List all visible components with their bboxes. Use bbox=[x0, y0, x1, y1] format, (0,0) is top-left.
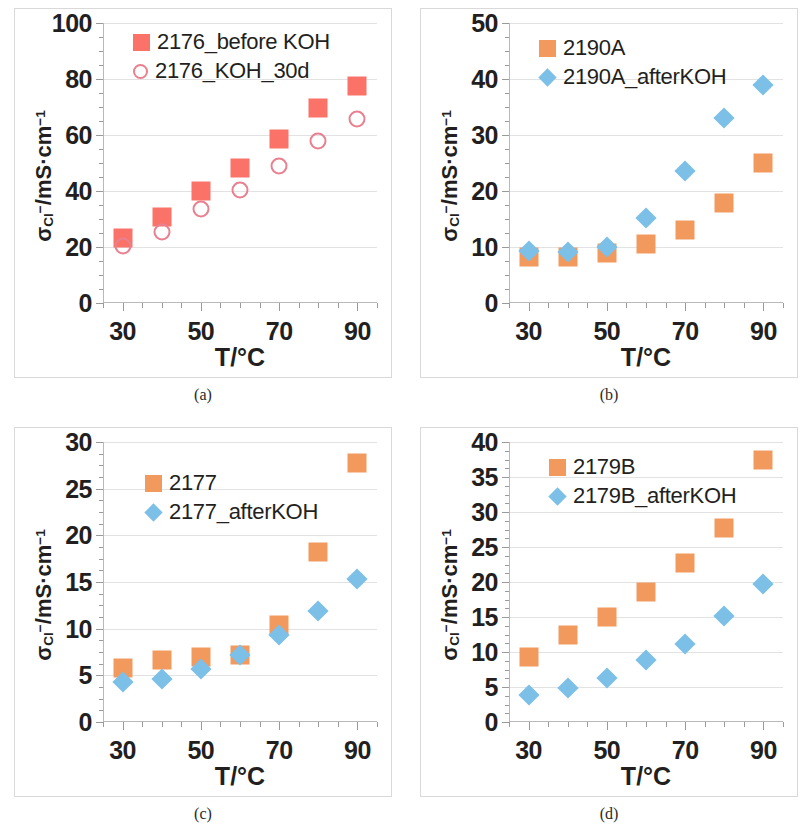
marker-circle-open bbox=[192, 201, 209, 218]
y-tick-minor bbox=[505, 643, 509, 644]
legend-item[interactable]: 2176_KOH_30d bbox=[133, 58, 330, 84]
x-tick-label: 50 bbox=[187, 736, 214, 765]
legend-item[interactable]: 2177 bbox=[145, 470, 318, 496]
x-tick-label: 90 bbox=[750, 736, 777, 765]
panel-caption: (a) bbox=[0, 386, 406, 404]
x-tick-minor bbox=[142, 722, 143, 727]
marker-circle-open bbox=[349, 110, 366, 127]
legend-item[interactable]: 2190A_afterKOH bbox=[539, 64, 726, 90]
y-tick-minor bbox=[99, 289, 103, 290]
marker-square bbox=[348, 453, 367, 472]
x-tick-minor bbox=[626, 722, 627, 727]
x-tick-minor bbox=[299, 722, 300, 727]
panel-d: 0510152025303540305070902179B2179B_after… bbox=[406, 419, 812, 838]
legend-item[interactable]: 2179B_afterKOH bbox=[549, 483, 736, 509]
plot-frame: 0510152025303050709021772177_afterKOHT/°… bbox=[14, 427, 392, 797]
y-tick-minor bbox=[99, 699, 103, 700]
y-tick-major bbox=[502, 79, 509, 80]
x-tick-minor bbox=[705, 303, 706, 308]
legend-item[interactable]: 2179B bbox=[549, 454, 736, 480]
y-axis-line bbox=[103, 23, 104, 303]
y-tick-major bbox=[96, 582, 103, 583]
y-tick-minor bbox=[99, 465, 103, 466]
marker-square bbox=[676, 221, 695, 240]
legend-item[interactable]: 2177_afterKOH bbox=[145, 499, 318, 525]
y-tick-major bbox=[96, 722, 103, 723]
marker-diamond bbox=[596, 667, 617, 688]
marker-square bbox=[348, 77, 367, 96]
x-tick-minor bbox=[666, 303, 667, 308]
x-tick-label: 70 bbox=[672, 317, 699, 346]
y-tick-minor bbox=[505, 261, 509, 262]
x-tick-label: 50 bbox=[593, 736, 620, 765]
x-tick-minor bbox=[162, 303, 163, 308]
y-tick-label: 30 bbox=[65, 428, 92, 457]
y-tick-minor bbox=[99, 570, 103, 571]
gridline-horizontal bbox=[509, 617, 783, 618]
y-tick-minor bbox=[99, 233, 103, 234]
legend-item-label: 2179B_afterKOH bbox=[573, 483, 736, 509]
marker-circle-open bbox=[310, 133, 327, 150]
y-tick-major bbox=[502, 442, 509, 443]
marker-diamond bbox=[557, 677, 578, 698]
y-tick-label: 5 bbox=[485, 673, 498, 702]
x-tick-minor bbox=[162, 722, 163, 727]
y-tick-major bbox=[96, 23, 103, 24]
y-tick-major bbox=[502, 135, 509, 136]
x-tick-minor bbox=[568, 303, 569, 308]
y-tick-label: 50 bbox=[471, 9, 498, 38]
y-tick-label: 0 bbox=[79, 289, 92, 318]
y-tick-minor bbox=[505, 451, 509, 452]
y-tick-minor bbox=[505, 205, 509, 206]
y-tick-minor bbox=[505, 149, 509, 150]
x-tick-major bbox=[123, 722, 124, 730]
y-tick-minor bbox=[99, 524, 103, 525]
gridline-horizontal bbox=[103, 582, 377, 583]
gridline-horizontal bbox=[103, 629, 377, 630]
gridline-horizontal bbox=[103, 442, 377, 443]
x-tick-major bbox=[279, 303, 280, 311]
x-tick-major bbox=[685, 722, 686, 730]
gridline-horizontal bbox=[103, 23, 377, 24]
y-tick-major bbox=[96, 489, 103, 490]
y-tick-minor bbox=[505, 289, 509, 290]
x-tick-minor bbox=[338, 303, 339, 308]
y-tick-minor bbox=[505, 233, 509, 234]
y-tick-minor bbox=[505, 219, 509, 220]
y-tick-minor bbox=[99, 65, 103, 66]
y-tick-label: 0 bbox=[485, 289, 498, 318]
y-tick-label: 25 bbox=[65, 474, 92, 503]
gridline-horizontal bbox=[509, 442, 783, 443]
y-tick-minor bbox=[505, 713, 509, 714]
y-tick-minor bbox=[99, 51, 103, 52]
y-tick-label: 100 bbox=[52, 9, 92, 38]
legend: 21772177_afterKOH bbox=[145, 470, 318, 528]
y-tick-minor bbox=[505, 275, 509, 276]
marker-square bbox=[191, 182, 210, 201]
y-tick-minor bbox=[99, 664, 103, 665]
panel-caption: (d) bbox=[406, 805, 812, 823]
y-tick-minor bbox=[99, 617, 103, 618]
marker-diamond bbox=[753, 74, 774, 95]
y-axis-title: σCl−/mS·cm−1 bbox=[437, 61, 463, 291]
legend-item[interactable]: 2190A bbox=[539, 35, 726, 61]
y-tick-minor bbox=[505, 626, 509, 627]
x-tick-minor bbox=[646, 722, 647, 727]
legend-marker-square bbox=[539, 40, 556, 57]
marker-square bbox=[715, 519, 734, 538]
x-tick-minor bbox=[783, 722, 784, 727]
y-tick-minor bbox=[505, 670, 509, 671]
x-tick-label: 90 bbox=[750, 317, 777, 346]
x-tick-major bbox=[279, 722, 280, 730]
y-tick-major bbox=[96, 79, 103, 80]
x-tick-minor bbox=[377, 303, 378, 308]
x-tick-major bbox=[201, 303, 202, 311]
legend-marker-diamond bbox=[548, 487, 566, 505]
legend-item[interactable]: 2176_before KOH bbox=[133, 29, 330, 55]
y-tick-minor bbox=[505, 37, 509, 38]
marker-diamond bbox=[714, 108, 735, 129]
x-tick-minor bbox=[744, 722, 745, 727]
y-tick-minor bbox=[505, 495, 509, 496]
y-axis-title: σCl−/mS·cm−1 bbox=[31, 61, 57, 291]
panel-b: 01020304050305070902190A2190A_afterKOHT/… bbox=[406, 0, 812, 419]
